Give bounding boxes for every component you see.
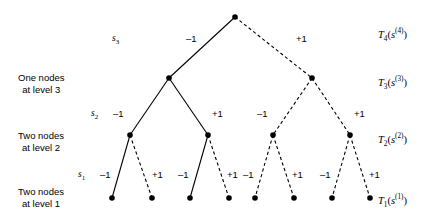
stage-label-s1-subscript: 1 bbox=[82, 174, 86, 182]
value-label-T3: T3(s(3)) bbox=[378, 74, 407, 93]
level-2-row-label-line2: at level 2 bbox=[18, 142, 64, 154]
value-label-T4: T4(s(4)) bbox=[378, 26, 407, 45]
tree-node-l8[interactable] bbox=[367, 195, 373, 201]
value-label-T1: T1(s(1)) bbox=[378, 192, 407, 211]
edge-label-root-right: +1 bbox=[296, 33, 307, 45]
edge-label-n3L-left: –1 bbox=[113, 108, 124, 120]
level-2-row-label-line1: Two nodes bbox=[18, 130, 64, 142]
tree-node-l5[interactable] bbox=[252, 195, 258, 201]
level-1-row-label: Two nodesat level 1 bbox=[18, 186, 64, 209]
tree-node-n2a[interactable] bbox=[127, 132, 133, 138]
edge-n2a-right bbox=[130, 135, 152, 198]
tree-node-l2[interactable] bbox=[149, 195, 155, 201]
edge-root-right bbox=[235, 17, 312, 78]
tree-node-l3[interactable] bbox=[187, 195, 193, 201]
edge-n3L-left bbox=[130, 78, 169, 135]
edge-label-n2a-right: +1 bbox=[152, 169, 163, 181]
level-3-row-label-line1: One nodes bbox=[18, 72, 64, 84]
edge-root-left bbox=[169, 17, 235, 78]
edge-label-n3L-right: +1 bbox=[212, 108, 223, 120]
edge-n2c-right bbox=[273, 135, 294, 198]
edge-n3L-right bbox=[169, 78, 208, 135]
value-label-T2: T2(s(2)) bbox=[378, 131, 407, 150]
edge-label-n2b-left: –1 bbox=[178, 169, 189, 181]
edge-label-n3R-right: +1 bbox=[354, 108, 365, 120]
tree-node-n3L[interactable] bbox=[166, 75, 172, 81]
value-label-T3-close-paren: ) bbox=[403, 77, 407, 88]
tree-node-root[interactable] bbox=[232, 14, 238, 20]
edge-label-n2c-right: +1 bbox=[292, 169, 303, 181]
stage-label-s3: s3 bbox=[112, 33, 119, 48]
edge-n2d-left bbox=[332, 135, 350, 198]
tree-node-n2c[interactable] bbox=[270, 132, 276, 138]
edge-label-n2c-left: –1 bbox=[243, 169, 254, 181]
edge-label-n2d-left: –1 bbox=[320, 169, 331, 181]
tree-node-n2d[interactable] bbox=[347, 132, 353, 138]
edge-label-n2d-right: +1 bbox=[369, 169, 380, 181]
decision-tree-figure: One nodesat level 3Two nodesat level 2Tw… bbox=[0, 0, 443, 219]
tree-edges bbox=[112, 17, 370, 198]
edge-n2b-left bbox=[190, 135, 208, 198]
value-label-T2-close-paren: ) bbox=[403, 134, 407, 145]
tree-node-l4[interactable] bbox=[226, 195, 232, 201]
edge-n3R-left bbox=[273, 78, 312, 135]
value-label-T1-close-paren: ) bbox=[403, 195, 407, 206]
tree-node-l1[interactable] bbox=[109, 195, 115, 201]
level-1-row-label-line2: at level 1 bbox=[18, 198, 64, 210]
tree-node-n2b[interactable] bbox=[205, 132, 211, 138]
value-label-T4-close-paren: ) bbox=[403, 29, 407, 40]
edge-label-n2a-left: –1 bbox=[100, 169, 111, 181]
level-2-row-label: Two nodesat level 2 bbox=[18, 130, 64, 153]
edge-n2b-right bbox=[208, 135, 229, 198]
stage-label-s2: s2 bbox=[91, 108, 98, 123]
stage-label-s3-subscript: 3 bbox=[116, 38, 120, 46]
level-3-row-label: One nodesat level 3 bbox=[18, 72, 64, 95]
edge-n3R-right bbox=[312, 78, 350, 135]
tree-node-l7[interactable] bbox=[329, 195, 335, 201]
stage-label-s1: s1 bbox=[78, 169, 85, 184]
stage-label-s2-subscript: 2 bbox=[95, 113, 99, 121]
edge-label-root-left: –1 bbox=[186, 33, 197, 45]
edge-n2a-left bbox=[112, 135, 130, 198]
tree-node-n3R[interactable] bbox=[309, 75, 315, 81]
edge-label-n3R-left: –1 bbox=[257, 108, 268, 120]
edge-n2d-right bbox=[350, 135, 370, 198]
edge-label-n2b-right: +1 bbox=[227, 169, 238, 181]
level-3-row-label-line2: at level 3 bbox=[18, 84, 64, 96]
tree-node-l6[interactable] bbox=[291, 195, 297, 201]
edge-n2c-left bbox=[255, 135, 273, 198]
level-1-row-label-line1: Two nodes bbox=[18, 186, 64, 198]
